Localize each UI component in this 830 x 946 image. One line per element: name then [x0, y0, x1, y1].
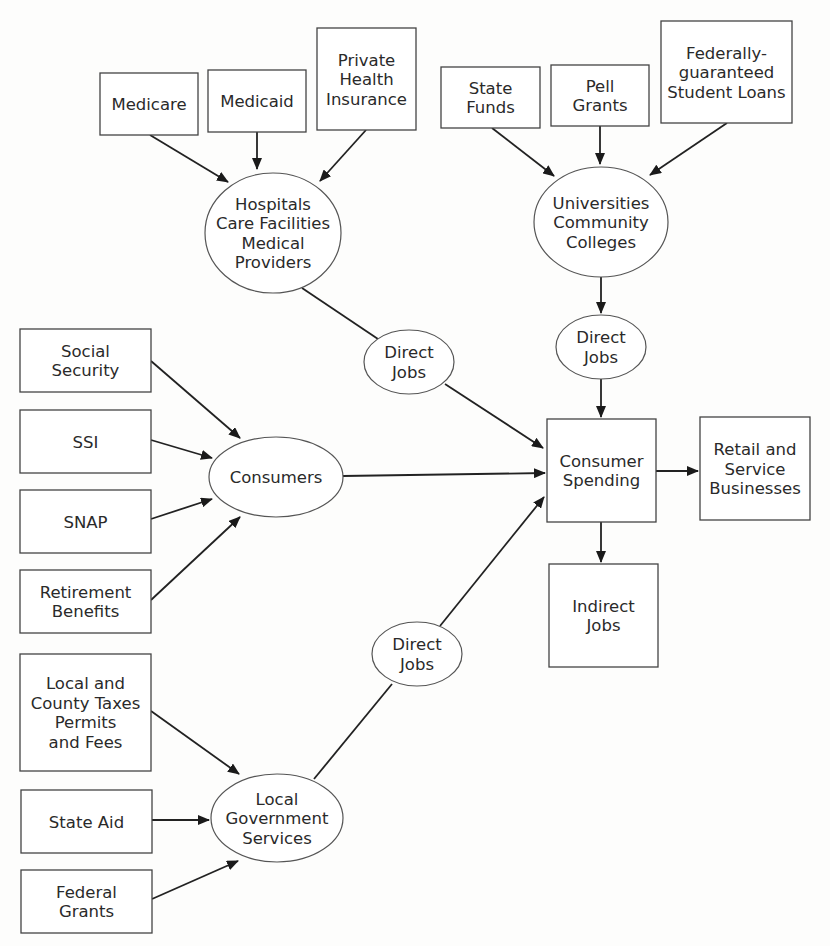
node-label-line: Providers [235, 253, 312, 272]
arrow-icon [492, 128, 554, 176]
node-label-line: Federally- [686, 44, 767, 63]
node-label-line: Jobs [391, 363, 426, 382]
node-label-line: and Fees [49, 733, 123, 752]
arrow-icon [151, 499, 212, 519]
node-label-line: Consumers [230, 468, 323, 487]
node-label-line: Private [338, 51, 396, 70]
node-medicare: Medicare [100, 73, 198, 135]
node-label-line: Universities [553, 194, 650, 213]
node-label-line: Direct [392, 635, 442, 654]
node-student-loans: Federally-guaranteedStudent Loans [661, 21, 792, 123]
edge-hospitals-to-direct-jobs-health [302, 288, 378, 339]
connector-line [314, 684, 392, 779]
edge-retirement-benefits-to-consumers [151, 517, 240, 600]
node-label-line: Permits [55, 713, 117, 732]
node-label-line: Funds [466, 98, 515, 117]
edge-direct-jobs-gov-to-consumer-spending [440, 497, 544, 626]
node-label-line: Spending [563, 471, 641, 490]
node-label-line: Businesses [709, 479, 801, 498]
node-private-health-insurance: PrivateHealthInsurance [317, 28, 416, 130]
node-local-gov-services: LocalGovernmentServices [211, 774, 343, 862]
edge-student-loans-to-universities [650, 123, 727, 175]
edge-ssi-to-consumers [151, 440, 212, 458]
node-label-line: Benefits [52, 602, 120, 621]
node-label-line: Security [52, 361, 120, 380]
node-label-line: Social [61, 342, 110, 361]
node-direct-jobs-gov: DirectJobs [372, 622, 462, 686]
node-label-line: Jobs [585, 616, 620, 635]
node-label-line: State [469, 79, 513, 98]
node-hospitals: HospitalsCare FacilitiesMedicalProviders [205, 173, 341, 293]
edge-local-gov-services-to-direct-jobs-gov [314, 684, 392, 779]
node-medicaid: Medicaid [208, 70, 306, 132]
node-indirect-jobs: IndirectJobs [549, 564, 658, 667]
arrow-icon [151, 361, 240, 438]
connector-line [302, 288, 378, 339]
node-label-line: Consumer [559, 452, 643, 471]
node-label-line: County Taxes [31, 694, 140, 713]
node-label-line: Health [339, 70, 393, 89]
node-label-line: Medical [241, 234, 304, 253]
edge-private-health-insurance-to-hospitals [320, 130, 366, 181]
node-federal-grants: FederalGrants [21, 870, 152, 933]
arrow-icon [151, 711, 239, 774]
node-label-line: Federal [56, 883, 117, 902]
node-label-line: Pell [586, 77, 615, 96]
node-label-line: Services [242, 829, 312, 848]
node-label-line: Community [553, 213, 649, 232]
node-snap: SNAP [20, 490, 151, 553]
node-label-line: Indirect [572, 597, 635, 616]
edge-local-county-taxes-to-local-gov-services [151, 711, 239, 774]
node-label-line: guaranteed [679, 63, 775, 82]
node-label-line: Jobs [399, 655, 434, 674]
node-direct-jobs-edu: DirectJobs [556, 315, 646, 379]
edge-snap-to-consumers [151, 499, 212, 519]
node-label-line: Grants [59, 902, 114, 921]
node-retirement-benefits: RetirementBenefits [20, 570, 151, 633]
node-label-line: Government [226, 809, 329, 828]
arrow-icon [343, 473, 545, 476]
arrow-icon [152, 861, 238, 899]
node-label-line: Local [256, 790, 299, 809]
edge-social-security-to-consumers [151, 361, 240, 438]
arrow-icon [440, 497, 544, 626]
nodes-layer: MedicareMedicaidPrivateHealthInsuranceHo… [20, 21, 810, 933]
arrow-icon [150, 135, 228, 182]
node-label-line: Grants [572, 96, 627, 115]
node-ssi: SSI [20, 410, 151, 473]
node-label-line: SSI [73, 433, 99, 452]
arrow-icon [151, 440, 212, 458]
edge-medicare-to-hospitals [150, 135, 228, 182]
edge-federal-grants-to-local-gov-services [152, 861, 238, 899]
edge-state-funds-to-universities [492, 128, 554, 176]
arrow-icon [650, 123, 727, 175]
node-label-line: State Aid [49, 813, 124, 832]
node-label-line: Colleges [566, 233, 636, 252]
node-label-line: Retail and [714, 440, 797, 459]
node-label-line: Direct [576, 328, 626, 347]
node-label-line: Medicaid [220, 92, 294, 111]
arrow-icon [320, 130, 366, 181]
node-label-line: SNAP [63, 513, 107, 532]
node-label-line: Hospitals [235, 195, 311, 214]
edge-consumers-to-consumer-spending [343, 473, 545, 476]
node-social-security: SocialSecurity [20, 329, 151, 392]
edge-direct-jobs-health-to-consumer-spending [445, 384, 543, 448]
node-direct-jobs-health: DirectJobs [364, 330, 454, 394]
flow-diagram: MedicareMedicaidPrivateHealthInsuranceHo… [0, 0, 830, 946]
node-state-funds: StateFunds [441, 67, 540, 128]
node-label-line: Medicare [111, 95, 186, 114]
node-state-aid: State Aid [21, 790, 152, 853]
node-label-line: Service [725, 460, 786, 479]
node-universities: UniversitiesCommunityColleges [534, 167, 668, 277]
node-label-line: Local and [46, 674, 125, 693]
node-label-line: Jobs [583, 348, 618, 367]
node-consumers: Consumers [209, 437, 343, 517]
node-retail-service: Retail andServiceBusinesses [700, 417, 810, 520]
node-label-line: Direct [384, 343, 434, 362]
arrow-icon [445, 384, 543, 448]
arrow-icon [151, 517, 240, 600]
node-label-line: Care Facilities [216, 214, 330, 233]
node-label-line: Insurance [326, 90, 407, 109]
node-pell-grants: PellGrants [551, 65, 649, 126]
